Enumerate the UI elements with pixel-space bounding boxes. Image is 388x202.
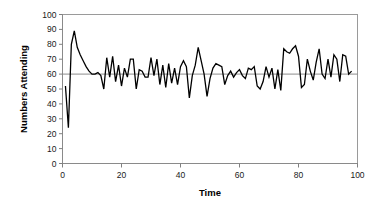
x-axis-title: Time (199, 187, 221, 198)
y-axis-title: Numbers Attending (18, 45, 29, 133)
x-tick-label: 20 (117, 170, 127, 180)
y-tick-label: 30 (47, 114, 57, 124)
x-tick-label: 40 (176, 170, 186, 180)
y-tick-label: 60 (47, 69, 57, 79)
y-tick-label: 50 (47, 84, 57, 94)
line-chart: 0102030405060708090100 020406080100 Time… (0, 0, 388, 202)
x-tick-label: 0 (60, 170, 65, 180)
x-tick-label: 60 (235, 170, 245, 180)
y-tick-label: 20 (47, 129, 57, 139)
y-tick-label: 70 (47, 54, 57, 64)
y-tick-label: 80 (47, 39, 57, 49)
x-tick-label: 100 (350, 170, 364, 180)
y-tick-label: 40 (47, 99, 57, 109)
y-tick-label: 0 (52, 159, 57, 169)
y-tick-label: 10 (47, 144, 57, 154)
y-tick-label: 90 (47, 24, 57, 34)
chart-figure: 0102030405060708090100 020406080100 Time… (0, 0, 388, 202)
chart-background (0, 0, 388, 202)
y-tick-label: 100 (42, 10, 56, 20)
x-tick-label: 80 (294, 170, 304, 180)
